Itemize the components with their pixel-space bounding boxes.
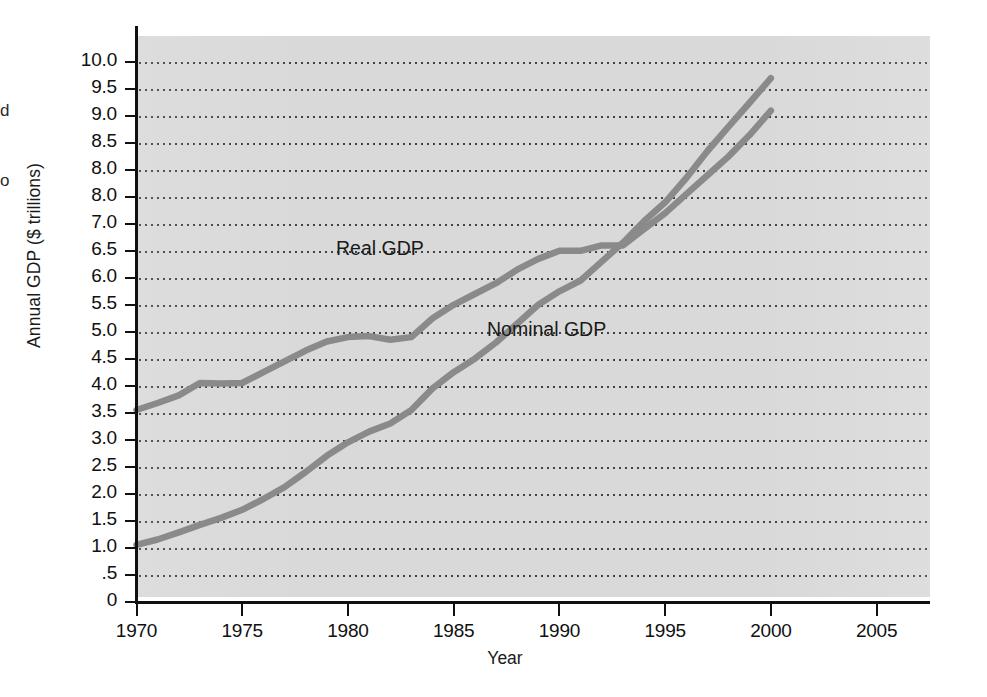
- x-axis-tick: [453, 604, 455, 616]
- y-axis-tick-label: 5.5: [55, 292, 117, 314]
- y-axis-tick: [125, 304, 138, 306]
- y-axis-tick-label: 8.0: [55, 157, 117, 179]
- y-axis-tick: [125, 115, 138, 117]
- x-axis-tick: [664, 604, 666, 616]
- y-axis-tick-label: 1.5: [55, 508, 117, 530]
- y-axis-tick: [125, 412, 138, 414]
- x-axis-tick-label: 2005: [837, 620, 917, 642]
- y-axis-tick-label: 0: [55, 589, 117, 611]
- x-axis-tick-label: 1980: [308, 620, 388, 642]
- y-axis-tick: [125, 358, 138, 360]
- x-axis-tick-label: 1985: [414, 620, 494, 642]
- y-axis-tick-label: 9.0: [55, 103, 117, 125]
- y-axis-tick-label: 4.5: [55, 346, 117, 368]
- x-axis-tick-label: 1990: [519, 620, 599, 642]
- y-axis-tick: [125, 493, 138, 495]
- y-axis-tick: [125, 277, 138, 279]
- series-label-real-gdp: Real GDP: [336, 237, 424, 260]
- series-label-nominal-gdp: Nominal GDP: [487, 318, 606, 341]
- x-axis-tick: [876, 604, 878, 616]
- y-axis-tick-label: .5: [55, 562, 117, 584]
- y-axis-line: [135, 26, 138, 604]
- y-axis-tick: [125, 547, 138, 549]
- y-axis-tick: [125, 331, 138, 333]
- y-axis-tick-label: 3.5: [55, 400, 117, 422]
- x-axis-tick: [347, 604, 349, 616]
- x-axis-tick-label: 1970: [97, 620, 177, 642]
- y-axis-tick-label: 8.0: [55, 184, 117, 206]
- y-axis-tick: [125, 169, 138, 171]
- y-axis-tick-label: 9.5: [55, 76, 117, 98]
- y-axis-tick-label: 4.0: [55, 373, 117, 395]
- x-axis-tick: [558, 604, 560, 616]
- y-axis-tick: [125, 250, 138, 252]
- y-axis-tick-label: 6.0: [55, 265, 117, 287]
- series-lines-layer: [0, 0, 987, 697]
- y-axis-tick-label: 7.0: [55, 211, 117, 233]
- y-axis-tick: [125, 601, 138, 603]
- x-axis-tick: [136, 604, 138, 616]
- y-axis-tick-label: 3.0: [55, 427, 117, 449]
- y-axis-tick-label: 2.0: [55, 481, 117, 503]
- y-axis-tick: [125, 142, 138, 144]
- y-axis-tick-label: 2.5: [55, 454, 117, 476]
- x-axis-line: [135, 601, 930, 604]
- y-axis-tick-label: 1.0: [55, 535, 117, 557]
- y-axis-tick: [125, 385, 138, 387]
- x-axis-tick: [241, 604, 243, 616]
- y-axis-tick: [125, 439, 138, 441]
- y-axis-tick: [125, 223, 138, 225]
- x-axis-tick: [770, 604, 772, 616]
- gdp-figure: d o Annual GDP ($ trillions) Real GDP No…: [0, 0, 987, 697]
- y-axis-tick: [125, 196, 138, 198]
- x-axis-title: Year: [430, 648, 580, 669]
- y-axis-tick: [125, 574, 138, 576]
- x-axis-tick-label: 1975: [202, 620, 282, 642]
- series-line-real-gdp: [137, 111, 771, 410]
- y-axis-tick-label: 6.5: [55, 238, 117, 260]
- y-axis-tick: [125, 520, 138, 522]
- series-line-nominal-gdp: [137, 78, 771, 545]
- y-axis-tick: [125, 88, 138, 90]
- x-axis-tick-label: 2000: [731, 620, 811, 642]
- y-axis-tick-label: 5.0: [55, 319, 117, 341]
- y-axis-tick: [125, 466, 138, 468]
- y-axis-tick: [125, 61, 138, 63]
- y-axis-tick-label: 8.5: [55, 130, 117, 152]
- y-axis-tick-label: 10.0: [55, 49, 117, 71]
- x-axis-tick-label: 1995: [625, 620, 705, 642]
